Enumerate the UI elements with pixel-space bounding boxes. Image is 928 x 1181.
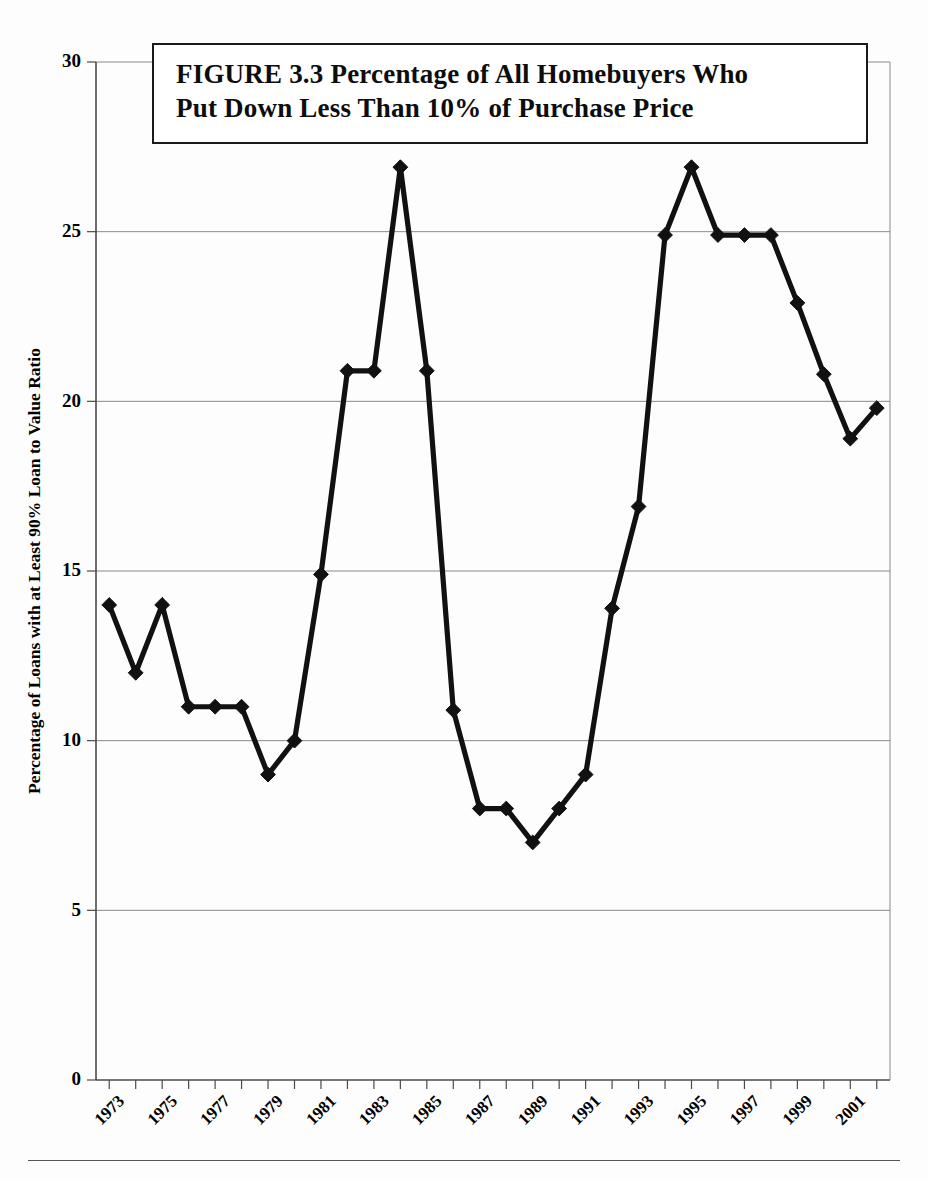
data-point-marker	[102, 598, 117, 613]
data-point-marker	[790, 296, 805, 311]
data-point-marker	[711, 228, 726, 243]
data-point-marker	[314, 567, 329, 582]
y-tick-label: 15	[62, 559, 81, 580]
data-point-marker	[737, 228, 752, 243]
data-point-marker	[155, 598, 170, 613]
x-tick-label: 1993	[620, 1091, 657, 1128]
footer-divider	[28, 1160, 900, 1161]
y-tick-label: 10	[62, 729, 81, 750]
x-tick-label: 1973	[91, 1091, 128, 1128]
figure-title-line-2: Put Down Less Than 10% of Purchase Price	[176, 92, 846, 125]
data-point-marker	[764, 228, 779, 243]
x-tick-label: 1999	[779, 1091, 816, 1128]
figure-page: 0510152025301973197519771979198119831985…	[0, 0, 928, 1181]
x-tick-label: 1983	[355, 1091, 392, 1128]
data-point-marker	[631, 499, 646, 514]
y-tick-label: 20	[62, 390, 81, 411]
figure-title-box: FIGURE 3.3 Percentage of All Homebuyers …	[152, 43, 868, 144]
x-tick-label: 2001	[832, 1091, 869, 1128]
data-point-marker	[234, 699, 249, 714]
x-tick-label: 1975	[144, 1091, 181, 1128]
y-tick-label: 30	[62, 50, 81, 71]
data-point-marker	[419, 363, 434, 378]
line-chart: 0510152025301973197519771979198119831985…	[0, 0, 928, 1181]
data-series-line	[109, 167, 877, 842]
data-point-marker	[605, 601, 620, 616]
y-axis-title: Percentage of Loans with at Least 90% Lo…	[24, 348, 44, 794]
x-tick-label: 1997	[726, 1091, 764, 1129]
x-tick-label: 1981	[302, 1091, 339, 1128]
y-tick-label: 25	[62, 220, 81, 241]
figure-title-line-1: FIGURE 3.3 Percentage of All Homebuyers …	[176, 58, 846, 91]
data-point-marker	[472, 801, 487, 816]
data-point-marker	[181, 699, 196, 714]
data-point-marker	[128, 665, 143, 680]
x-tick-label: 1991	[567, 1091, 604, 1128]
x-tick-label: 1987	[461, 1091, 499, 1129]
data-point-marker	[684, 160, 699, 175]
data-point-marker	[446, 703, 461, 718]
x-tick-label: 1985	[408, 1091, 445, 1128]
data-point-marker	[393, 160, 408, 175]
y-tick-label: 5	[72, 899, 82, 920]
y-tick-label: 0	[72, 1068, 82, 1089]
x-tick-label: 1977	[196, 1091, 234, 1129]
data-point-marker	[208, 699, 223, 714]
data-point-marker	[367, 363, 382, 378]
x-tick-label: 1989	[514, 1091, 551, 1128]
data-point-marker	[340, 363, 355, 378]
data-point-marker	[658, 228, 673, 243]
data-point-marker	[816, 367, 831, 382]
x-tick-label: 1995	[673, 1091, 710, 1128]
x-tick-label: 1979	[249, 1091, 286, 1128]
